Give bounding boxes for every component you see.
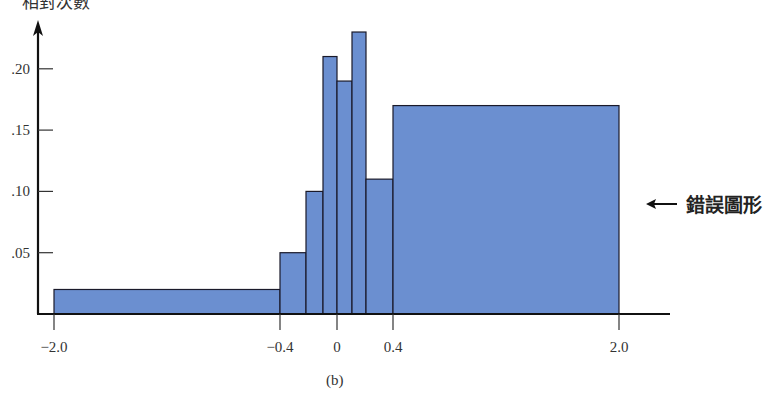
histogram-bar (337, 81, 352, 314)
histogram-bar (393, 106, 619, 314)
x-tick-label: 0 (333, 339, 341, 355)
histogram-bar (352, 32, 366, 314)
y-tick-label: .15 (11, 122, 30, 138)
x-tick-label: 2.0 (610, 339, 629, 355)
y-axis-ticks: .05.10.15.20 (11, 61, 53, 261)
histogram-bar (366, 179, 393, 314)
histogram-bars (54, 32, 619, 314)
x-tick-label: 0.4 (384, 339, 403, 355)
histogram-bar (280, 253, 306, 314)
histogram-bar (54, 289, 280, 314)
x-tick-label: −0.4 (266, 339, 294, 355)
arrow-left-icon (646, 198, 678, 210)
histogram-bar (323, 57, 337, 314)
y-tick-label: .05 (11, 245, 30, 261)
figure-caption: (b) (326, 372, 344, 389)
y-tick-label: .10 (11, 183, 30, 199)
x-tick-label: −2.0 (40, 339, 67, 355)
x-axis-ticks: −2.0−0.400.42.0 (40, 314, 628, 355)
error-graph-annotation: 錯誤圖形 (646, 190, 762, 217)
annotation-text: 錯誤圖形 (686, 190, 762, 217)
histogram-bar (306, 191, 323, 314)
y-tick-label: .20 (11, 61, 30, 77)
